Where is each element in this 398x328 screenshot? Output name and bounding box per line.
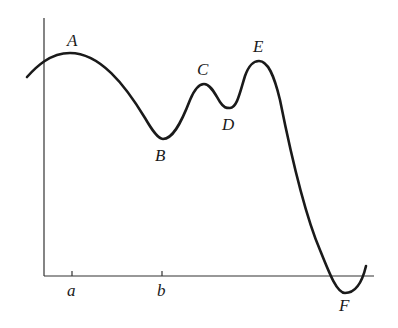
function-graph-diagram: A B C D E F a b <box>0 0 398 328</box>
point-label-c: C <box>197 60 209 79</box>
x-tick-label-a: a <box>67 281 76 300</box>
point-label-a: A <box>66 31 78 50</box>
function-curve <box>27 53 366 293</box>
point-label-f: F <box>338 296 350 315</box>
point-label-b: B <box>155 146 166 165</box>
x-tick-label-b: b <box>157 281 166 300</box>
point-label-e: E <box>252 37 264 56</box>
point-label-d: D <box>221 115 235 134</box>
graph-canvas: A B C D E F a b <box>0 0 398 328</box>
